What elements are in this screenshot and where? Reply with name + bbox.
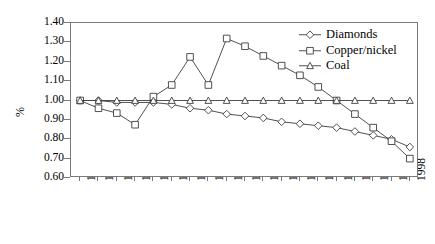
y-axis-tick-label: 1.00 [18, 94, 64, 106]
data-point-marker [260, 114, 268, 122]
y-axis-tick-label: 1.10 [18, 74, 64, 86]
data-point-marker [187, 54, 194, 61]
y-axis-tick-label: 0.90 [18, 113, 64, 125]
data-point-marker [205, 106, 213, 114]
series-diamonds [76, 97, 413, 151]
y-axis-tick-mark [64, 177, 70, 178]
legend-item-coal: Coal [297, 58, 397, 74]
data-point-marker [406, 143, 414, 151]
data-point-marker [278, 118, 286, 126]
data-point-marker [241, 112, 249, 120]
y-axis-tick-label: 1.40 [18, 16, 64, 28]
data-point-marker [223, 110, 231, 118]
data-point-marker [296, 120, 304, 128]
data-point-marker [205, 82, 212, 89]
y-axis-tick-label: 0.60 [18, 171, 64, 183]
data-point-marker [388, 138, 395, 145]
chart-legend: Diamonds Copper/nickel Coal [297, 27, 397, 74]
data-point-marker [223, 35, 230, 42]
legend-item-label: Diamonds [323, 27, 377, 43]
legend-item-label: Coal [323, 58, 350, 74]
data-point-marker [370, 124, 377, 131]
y-axis-tick-label: 1.30 [18, 35, 64, 47]
series-line [80, 101, 410, 148]
diamond-marker-icon [297, 27, 323, 43]
data-point-marker [95, 105, 102, 112]
data-point-marker [315, 84, 322, 91]
y-axis-tick-label: 1.20 [18, 55, 64, 67]
data-point-marker [333, 124, 341, 132]
data-point-marker [407, 155, 414, 162]
data-point-marker [168, 82, 175, 89]
chart-figure: % 1.401.301.201.101.000.900.800.700.60 1… [0, 0, 435, 244]
data-point-marker [352, 111, 359, 118]
data-point-marker [369, 132, 377, 140]
triangle-marker-icon [297, 58, 323, 74]
data-point-marker [113, 110, 120, 117]
legend-item-copper-nickel: Copper/nickel [297, 43, 397, 59]
data-point-marker [132, 121, 139, 128]
legend-item-diamonds: Diamonds [297, 27, 397, 43]
data-point-marker [351, 128, 359, 136]
data-point-marker [186, 104, 194, 112]
square-marker-icon [297, 43, 323, 59]
data-point-marker [314, 122, 322, 130]
y-axis-tick-label: 0.70 [18, 152, 64, 164]
data-point-marker [278, 62, 285, 69]
data-point-marker [260, 53, 267, 60]
legend-item-label: Copper/nickel [323, 43, 397, 59]
y-axis-tick-label: 0.80 [18, 132, 64, 144]
data-point-marker [242, 43, 249, 50]
